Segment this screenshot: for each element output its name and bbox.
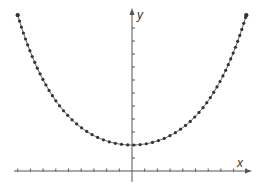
data-point [234, 46, 237, 49]
data-point [120, 143, 123, 146]
data-point [168, 134, 171, 137]
data-point [212, 91, 215, 94]
y-axis-arrow-icon [130, 8, 135, 15]
data-point [240, 28, 243, 31]
data-point [22, 31, 25, 34]
data-point [47, 89, 50, 92]
data-point [151, 141, 154, 144]
y-axis-label: y [136, 8, 144, 22]
data-point [20, 25, 23, 28]
data-point [189, 120, 192, 123]
data-point [18, 20, 21, 23]
data-point [224, 69, 227, 72]
data-point [184, 124, 187, 127]
x-axis [14, 169, 252, 174]
data-point [218, 80, 221, 83]
data-point [90, 133, 93, 136]
data-point [24, 37, 27, 40]
data-point [114, 142, 117, 145]
data-point [85, 130, 88, 133]
y-axis [130, 8, 136, 182]
data-point [66, 114, 69, 117]
data-point [58, 104, 61, 107]
data-point [62, 109, 65, 112]
data-point [163, 137, 166, 140]
data-point [201, 106, 204, 109]
data-point [108, 140, 111, 143]
data-point [221, 74, 224, 77]
x-axis-label: x [236, 156, 244, 170]
data-point [33, 61, 36, 64]
data-point [232, 52, 235, 55]
data-point [132, 143, 135, 146]
data-point [145, 142, 148, 145]
data-point [26, 43, 29, 46]
data-point [244, 13, 248, 17]
data-point [242, 22, 245, 25]
data-point [193, 115, 196, 118]
data-point [96, 136, 99, 139]
data-point [31, 55, 34, 58]
data-point [229, 57, 232, 60]
data-point [75, 122, 78, 125]
data-point [102, 138, 105, 141]
data-point [227, 63, 230, 66]
data-point [16, 13, 20, 17]
data-point [36, 67, 39, 70]
data-point [51, 94, 54, 97]
data-point [41, 78, 44, 81]
data-point [157, 139, 160, 142]
data-point [54, 99, 57, 102]
data-point [238, 34, 241, 37]
data-point [126, 143, 129, 146]
data-point [209, 96, 212, 99]
data-point [215, 85, 218, 88]
data-point [179, 128, 182, 131]
data-point [205, 101, 208, 104]
data-point [44, 83, 47, 86]
data-point [139, 143, 142, 146]
data-point [38, 72, 41, 75]
data-point [197, 111, 200, 114]
data-point [236, 40, 239, 43]
chart-plot: x y [0, 0, 261, 186]
data-point [70, 118, 73, 121]
data-point [80, 126, 83, 129]
data-point [174, 131, 177, 134]
data-point [28, 49, 31, 52]
